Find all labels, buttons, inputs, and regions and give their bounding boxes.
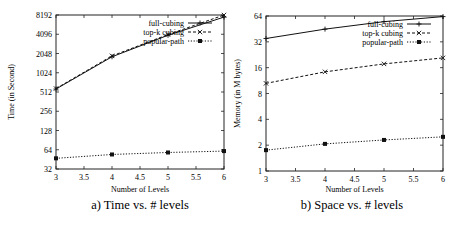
x-tick-label: 4 — [110, 173, 114, 182]
y-tick-label: 2048 — [36, 50, 52, 59]
x-tick-label: 4 — [323, 175, 327, 184]
x-tick-label: 3 — [54, 173, 58, 182]
plot-frame — [266, 16, 443, 171]
chart-space: 124816326433.544.555.56Number of LevelsM… — [233, 12, 446, 212]
y-tick-label: 512 — [40, 88, 52, 97]
y-tick-label: 1 — [258, 167, 262, 176]
legend-label: popular-path — [362, 38, 403, 47]
figure-canvas: 3264128256512102420484096819233.544.555.… — [0, 0, 467, 233]
y-tick-label: 4096 — [36, 30, 52, 39]
legend-label: popular-path — [143, 37, 184, 46]
y-tick-label: 8192 — [36, 11, 52, 20]
y-tick-label: 256 — [40, 107, 52, 116]
x-tick-label: 4.5 — [350, 175, 360, 184]
x-tick-label: 5 — [382, 175, 386, 184]
x-axis-label: Number of Levels — [325, 185, 383, 194]
y-tick-label: 64 — [44, 146, 52, 155]
y-tick-label: 32 — [254, 38, 262, 47]
x-tick-label: 3.5 — [291, 175, 301, 184]
x-tick-label: 5 — [166, 173, 170, 182]
y-tick-label: 1024 — [36, 69, 52, 78]
series-popular-path — [54, 149, 226, 160]
series-full-cubing — [54, 15, 227, 92]
legend-label: full-cubing — [367, 20, 403, 29]
y-tick-label: 128 — [40, 127, 52, 136]
y-tick-label: 32 — [44, 165, 52, 174]
x-tick-label: 3.5 — [79, 173, 89, 182]
x-tick-label: 6 — [441, 175, 445, 184]
chart-time: 3264128256512102420484096819233.544.555.… — [7, 11, 227, 212]
x-tick-label: 5.5 — [409, 175, 419, 184]
figure-caption: a) Time vs. # levels — [91, 198, 189, 212]
figure-caption: b) Space vs. # levels — [301, 198, 404, 212]
x-tick-label: 4.5 — [135, 173, 145, 182]
series-popular-path — [264, 135, 445, 152]
legend-label: full-cubing — [148, 19, 184, 28]
legend: full-cubingtop-k cubingpopular-path — [362, 20, 431, 47]
x-axis-label: Number of Levels — [111, 185, 169, 194]
x-tick-label: 3 — [264, 175, 268, 184]
y-axis-label: Memory (in M bytes) — [233, 59, 242, 128]
plot-frame — [56, 15, 224, 169]
y-tick-label: 2 — [258, 141, 262, 150]
legend-label: top-k cubing — [362, 29, 403, 38]
y-axis-label: Time (in Second) — [7, 64, 16, 120]
y-tick-label: 8 — [258, 90, 262, 99]
y-tick-label: 64 — [254, 12, 262, 21]
y-tick-label: 4 — [258, 115, 262, 124]
legend: full-cubingtop-k cubingpopular-path — [143, 19, 212, 46]
x-tick-label: 6 — [222, 173, 226, 182]
series-top-k-cubing — [264, 56, 445, 86]
x-tick-label: 5.5 — [191, 173, 201, 182]
legend-label: top-k cubing — [143, 28, 184, 37]
y-tick-label: 16 — [254, 64, 262, 73]
